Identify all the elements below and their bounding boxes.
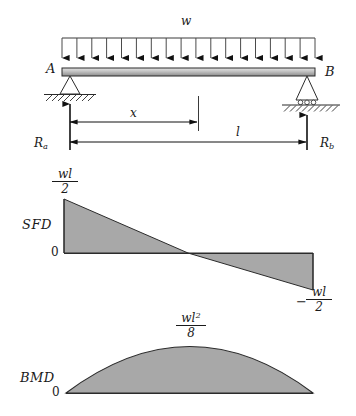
load-label-w: w: [181, 15, 191, 27]
bmd-zero-label: 0: [52, 386, 60, 398]
sfd-label: SFD: [22, 218, 52, 231]
load-group: [62, 38, 315, 58]
reaction-arrows: [70, 104, 307, 150]
bmd-max-numerator: wl2: [176, 311, 206, 325]
sfd-min-numerator: wl: [306, 286, 332, 299]
beam-analysis-figure: w A B Ra Rb x l SFD 0 wl 2 − wl 2 BMD 0 …: [0, 0, 356, 416]
beam-member: [62, 68, 315, 76]
dimension-label-x: x: [130, 107, 137, 119]
sfd-max-numerator: wl: [52, 168, 78, 181]
support-label-b: B: [325, 65, 335, 78]
bmd-max-numerator-base: wl: [181, 311, 195, 325]
sfd-max-fraction: wl 2: [52, 168, 78, 195]
reaction-ra-base: R: [34, 136, 43, 150]
sfd-zero-label: 0: [51, 246, 59, 258]
sfd-plot: [64, 199, 313, 290]
reaction-label-ra: Ra: [34, 137, 48, 150]
sfd-min-denominator: 2: [306, 300, 332, 313]
bmd-label: BMD: [20, 371, 55, 384]
sfd-max-denominator: 2: [52, 182, 78, 195]
bmd-plot: [66, 347, 313, 394]
bmd-max-numerator-exponent: 2: [195, 310, 200, 320]
dimension-label-l: l: [236, 126, 240, 138]
reaction-rb-base: R: [320, 136, 329, 150]
sfd-min-fraction: wl 2: [306, 286, 332, 313]
roller-support-right: [282, 76, 340, 112]
bmd-max-fraction: wl2 8: [176, 311, 206, 339]
reaction-label-rb: Rb: [320, 137, 334, 150]
reaction-rb-sub: b: [329, 141, 334, 151]
reaction-ra-sub: a: [43, 141, 48, 151]
pin-support-left: [44, 76, 96, 101]
support-label-a: A: [46, 62, 55, 75]
bmd-max-denominator: 8: [176, 326, 206, 339]
